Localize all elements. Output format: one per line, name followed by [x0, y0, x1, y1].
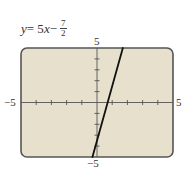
graph-plot: [0, 0, 191, 172]
y-min-label: −5: [87, 157, 99, 169]
x-min-label: −5: [4, 96, 16, 108]
y-max-label: 5: [94, 35, 100, 47]
x-max-label: 5: [176, 96, 182, 108]
